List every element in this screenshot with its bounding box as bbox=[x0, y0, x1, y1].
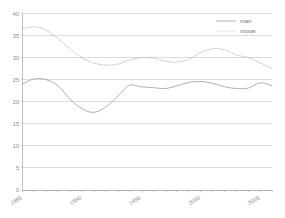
x-tick-label: 2005 bbox=[247, 195, 261, 206]
y-tick-label: 30 bbox=[13, 55, 19, 61]
line-chart: 0510152025303540 19851990199520002005 ma… bbox=[0, 0, 285, 218]
y-tick-label: 15 bbox=[13, 121, 19, 127]
y-tick-label: 20 bbox=[13, 99, 19, 105]
y-tick-label: 25 bbox=[13, 77, 19, 83]
y-tick-label: 0 bbox=[16, 187, 19, 193]
x-axis-tick-labels: 19851990199520002005 bbox=[9, 190, 272, 206]
x-tick-label: 1995 bbox=[128, 195, 142, 206]
legend-label-man: man bbox=[240, 18, 251, 24]
y-tick-label: 40 bbox=[13, 11, 19, 17]
series-line-vrouw bbox=[23, 27, 273, 68]
x-tick-label: 1985 bbox=[9, 195, 23, 206]
y-axis-tick-labels: 0510152025303540 bbox=[13, 11, 23, 194]
x-tick-label: 1990 bbox=[69, 195, 83, 206]
chart-legend: manvrouw bbox=[216, 18, 256, 34]
y-tick-label: 10 bbox=[13, 143, 19, 149]
chart-series bbox=[23, 27, 273, 113]
legend-label-vrouw: vrouw bbox=[240, 28, 256, 34]
x-tick-label: 2000 bbox=[187, 195, 201, 206]
chart-canvas: 0510152025303540 19851990199520002005 ma… bbox=[0, 0, 285, 218]
y-tick-label: 35 bbox=[13, 33, 19, 39]
y-tick-label: 5 bbox=[16, 165, 19, 171]
series-line-man bbox=[23, 78, 273, 112]
